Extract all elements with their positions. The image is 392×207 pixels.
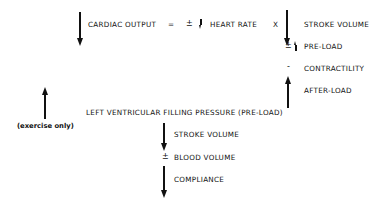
equals-sign: =: [168, 21, 174, 28]
lvfp-stroke-volume-label: STROKE VOLUME: [174, 131, 239, 138]
cardiac-output-label: CARDIAC OUTPUT: [88, 21, 156, 28]
afterload-label: AFTER-LOAD: [304, 87, 352, 94]
heart-rate-plus-minus: ±: [186, 20, 193, 28]
preload-label: PRE-LOAD: [304, 43, 343, 50]
stroke-volume-label: STROKE VOLUME: [304, 21, 369, 28]
blood-volume-label: BLOOD VOLUME: [174, 154, 236, 161]
blood-volume-plus-minus: ±: [162, 153, 169, 161]
contractility-label: CONTRACTILITY: [304, 65, 364, 72]
preload-plus-minus: ±: [285, 42, 292, 50]
lvfp-label: LEFT VENTRICULAR FILLING PRESSURE (PRE-L…: [86, 109, 283, 116]
heart-rate-label: HEART RATE: [210, 21, 257, 28]
times-sign: X: [273, 21, 278, 28]
compliance-label: COMPLIANCE: [174, 176, 224, 183]
contractility-minus: -: [287, 63, 290, 71]
exercise-only-note: (exercise only): [17, 123, 74, 130]
